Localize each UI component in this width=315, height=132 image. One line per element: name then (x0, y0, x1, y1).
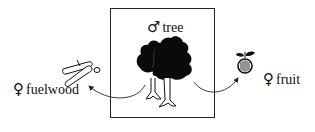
diagram-graphics (0, 0, 315, 132)
arrow-to-fuelwood (89, 85, 145, 98)
tree-icon (137, 36, 192, 107)
firewood-icon (63, 60, 100, 87)
arrow-to-fruit (194, 78, 238, 92)
fruit-icon (236, 52, 255, 73)
